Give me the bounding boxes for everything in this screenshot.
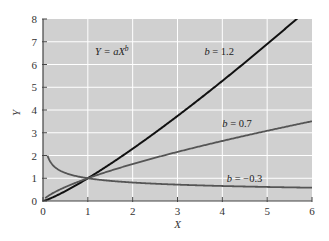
x-tick-label: 5 [264, 205, 270, 217]
x-tick-label: 0 [40, 205, 46, 217]
x-tick-label: 6 [309, 205, 315, 217]
series-label-value: = 1.2 [210, 46, 234, 57]
series-label-value: = −0.3 [232, 173, 262, 184]
y-tick-label: 6 [32, 59, 38, 71]
power-function-chart: 0123456012345678 b = 1.2b = 0.7b = −0.3 … [0, 0, 329, 241]
y-tick-label: 0 [32, 195, 38, 207]
x-tick-label: 4 [220, 205, 226, 217]
y-axis-label: Y [10, 108, 22, 116]
series-label-value: = 0.7 [228, 118, 252, 129]
y-tick-label: 4 [32, 104, 38, 116]
y-tick-label: 7 [32, 36, 38, 48]
series-label-2: b = −0.3 [227, 173, 262, 184]
x-axis-label: X [173, 218, 182, 230]
y-tick-label: 3 [32, 127, 38, 139]
y-tick-label: 2 [32, 150, 38, 162]
equation-annotation: Y = aXb [95, 44, 129, 57]
x-tick-label: 1 [85, 205, 91, 217]
equation-lhs: Y = aX [95, 46, 125, 57]
x-tick-label: 3 [175, 205, 181, 217]
x-tick-label: 2 [130, 205, 136, 217]
equation-exponent: b [125, 44, 129, 53]
y-tick-label: 5 [32, 81, 38, 93]
y-tick-label: 1 [32, 172, 38, 184]
y-tick-label: 8 [32, 13, 38, 25]
series-label-1: b = 0.7 [222, 118, 252, 129]
series-label-0: b = 1.2 [204, 46, 234, 57]
